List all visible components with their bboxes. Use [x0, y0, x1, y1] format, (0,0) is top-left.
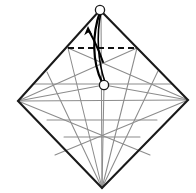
origami-diagram-figure [0, 0, 196, 193]
inner-vertex-marker [99, 80, 108, 89]
top-vertex-marker [95, 5, 104, 14]
origami-diagram-canvas [0, 0, 196, 193]
